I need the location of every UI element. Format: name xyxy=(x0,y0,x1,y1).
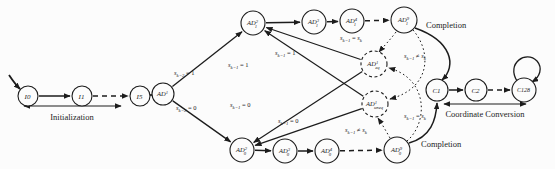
edge-label-sk1-eq-0-mid: sk−1 = 0 xyxy=(278,117,298,126)
edge-ad1-ad12 xyxy=(172,32,242,87)
edge-label-sk1-eq-sk-top: sk−1 = sk xyxy=(340,34,363,43)
fsm-state-diagram: I0I1I5AD1AD21AD31AD41AD91AD20AD30AD40AD9… xyxy=(0,0,555,169)
state-node-label-I0: I0 xyxy=(24,93,31,101)
edge-ad14-ad19 xyxy=(365,20,389,21)
edge-label-sk1-eq-sk-bot: sk−1 = sk xyxy=(404,112,427,121)
fsm-figure: I0I1I5AD1AD21AD31AD41AD91AD20AD30AD40AD9… xyxy=(0,0,555,169)
phase-label-initialization: Initialization xyxy=(50,112,94,122)
edge-completion-bottom xyxy=(409,103,437,143)
edge-label-sk1-eq-0-left: sk−1 = 0 xyxy=(230,101,250,110)
edge-ad09-aduneq xyxy=(378,118,390,138)
edge-ad04-ad09 xyxy=(340,150,382,151)
state-node-label-C1: C1 xyxy=(432,87,440,95)
edge-start-arrow xyxy=(9,75,20,89)
edge-ad1-ad02 xyxy=(173,101,231,142)
edge-ad19-adeq xyxy=(379,32,396,52)
state-node-label-I5: I5 xyxy=(136,93,143,101)
state-node-label-C2: C2 xyxy=(471,87,480,95)
state-node-label-I1: I1 xyxy=(78,93,85,101)
edge-label-sk1-eq-1-left: sk−1 = 1 xyxy=(228,61,248,70)
edge-label-sk2-eq-1: sk−2 = 1 xyxy=(174,69,194,78)
phase-label-coordinate-conversion: Coordinate Conversion xyxy=(445,109,525,119)
phase-label-completion-bottom: Completion xyxy=(421,139,462,149)
state-node-label-C128: C128 xyxy=(517,87,530,93)
phase-label-completion-top: Completion xyxy=(426,20,467,30)
edge-ad12-ad13 xyxy=(266,22,300,23)
edge-ad09-adeq xyxy=(389,68,421,141)
edge-label-sk1-eq-1-mid: sk−1 = 1 xyxy=(275,49,295,58)
edge-label-sk1-neq-sk-bot: sk−1 ≠ sk xyxy=(345,126,368,135)
edge-ad19-aduneq xyxy=(390,30,425,99)
edge-label-sk1-neq-sk-top: sk−1 ≠ sk xyxy=(404,52,427,61)
